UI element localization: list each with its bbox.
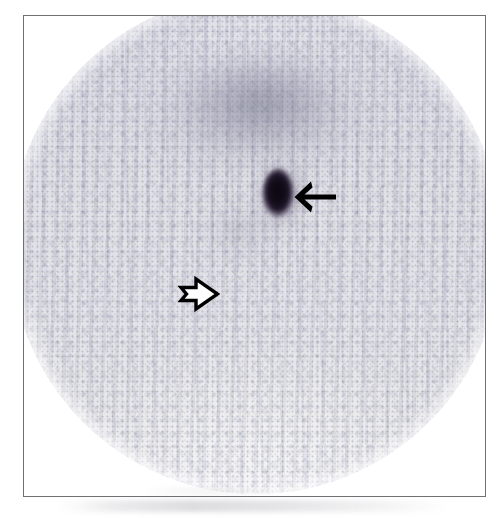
- scintigraphy-figure: [0, 0, 503, 518]
- field-of-view-wrapper: [24, 16, 485, 496]
- detector-field-of-view: [24, 16, 485, 494]
- scan-smudge-below-frame: [60, 500, 450, 512]
- arrow-right-open-icon: [178, 274, 220, 314]
- arrow-left-solid-icon: [292, 175, 338, 219]
- image-frame: [23, 15, 486, 497]
